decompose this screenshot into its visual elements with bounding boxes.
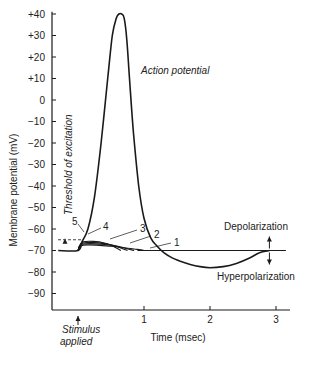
y-axis: +40+30+20+100−10−20−30−40−50−60−70−80−90 xyxy=(28,9,56,311)
curve-leader-line xyxy=(88,228,101,234)
x-axis-title: Time (msec) xyxy=(150,332,205,343)
y-tick-label: −40 xyxy=(28,181,45,192)
applied-label: applied xyxy=(60,336,93,347)
y-tick-label: −80 xyxy=(28,267,45,278)
y-tick-label: +20 xyxy=(28,52,45,63)
y-tick-label: −50 xyxy=(28,202,45,213)
curve-leader-line xyxy=(130,236,151,243)
annotation-layer: Membrane potential (mV) Time (msec) Acti… xyxy=(8,65,295,347)
curve-leader-line xyxy=(150,243,171,248)
hyperpolarization-label: Hyperpolarization xyxy=(217,271,295,282)
depolarization-arrow-head xyxy=(267,237,272,242)
y-tick-label: −20 xyxy=(28,138,45,149)
y-tick-label: +40 xyxy=(28,9,45,20)
stimulus-arrow-head xyxy=(76,316,81,321)
threshold-label: Threshold of excitation xyxy=(63,114,74,215)
hyperpolarization-arrow-head xyxy=(267,260,272,265)
curve-label-5: 5 xyxy=(72,216,78,227)
y-tick-label: −90 xyxy=(28,288,45,299)
y-tick-label: −30 xyxy=(28,159,45,170)
curve-label-2: 2 xyxy=(154,229,160,240)
y-tick-label: −70 xyxy=(28,245,45,256)
stimulus-label: Stimulus xyxy=(62,324,100,335)
action-potential-chart: +40+30+20+100−10−20−30−40−50−60−70−80−90… xyxy=(0,0,309,367)
y-tick-label: +30 xyxy=(28,30,45,41)
x-tick-label: 1 xyxy=(141,314,147,325)
y-axis-title: Membrane potential (mV) xyxy=(8,134,19,247)
y-tick-label: +10 xyxy=(28,73,45,84)
x-tick-label: 3 xyxy=(273,314,279,325)
depolarization-label: Depolarization xyxy=(224,221,288,232)
y-tick-label: 0 xyxy=(39,95,45,106)
curve-leader-line xyxy=(110,230,137,239)
curve-leader-line xyxy=(78,224,84,232)
curve-label-4: 4 xyxy=(103,221,109,232)
action-potential-label: Action potential xyxy=(140,65,210,76)
y-tick-label: −60 xyxy=(28,224,45,235)
curve-label-1: 1 xyxy=(174,237,180,248)
x-axis: 123 xyxy=(52,306,290,325)
x-tick-label: 2 xyxy=(207,314,213,325)
curve-label-3: 3 xyxy=(140,223,146,234)
y-tick-label: −10 xyxy=(28,116,45,127)
